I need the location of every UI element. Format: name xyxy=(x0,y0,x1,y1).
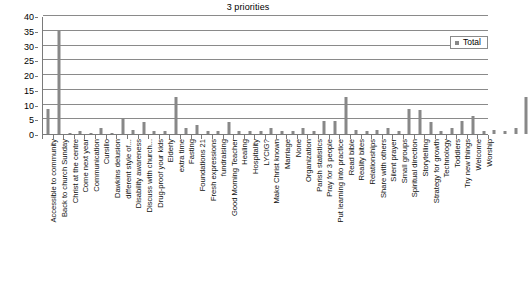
x-tick-label: Come next year xyxy=(82,139,90,193)
x-tick-label: Put learning into practice xyxy=(337,139,345,223)
bar-slot xyxy=(298,17,309,134)
y-tick-label: 40 xyxy=(24,13,34,22)
bar xyxy=(514,128,517,134)
bar xyxy=(227,122,230,134)
x-tick-label: Try new things xyxy=(464,139,472,188)
bar-slot xyxy=(149,17,160,134)
bar-slot xyxy=(43,17,54,134)
x-axis-label-2: Christ at the centre xyxy=(72,139,80,203)
x-tick-label: Make Christ known xyxy=(273,139,281,204)
y-tick-mark xyxy=(35,47,38,48)
x-tick-label: Accessible to community xyxy=(50,139,58,223)
bar-slot xyxy=(170,17,181,134)
plot-area xyxy=(42,17,488,135)
bar xyxy=(482,131,485,134)
bar-slot xyxy=(415,17,426,134)
bar-slot xyxy=(436,17,447,134)
x-tick-label: Communication xyxy=(93,139,101,192)
bar-slot xyxy=(468,17,479,134)
x-tick-label: Discuss with church... xyxy=(146,139,154,212)
x-tick-label: Share with others xyxy=(380,139,388,198)
bar-slot xyxy=(181,17,192,134)
y-tick-mark xyxy=(35,76,38,77)
bar xyxy=(440,131,443,134)
x-axis-label-38: Toddlers xyxy=(454,139,462,168)
x-axis-label-28: Read bible xyxy=(348,139,356,175)
bar-slot xyxy=(351,17,362,134)
y-tick-label: 30 xyxy=(24,42,34,51)
bar-slot xyxy=(500,17,511,134)
x-axis-label-39: Try new things xyxy=(464,139,472,188)
bar xyxy=(408,109,411,134)
y-tick-label: 0 xyxy=(29,131,34,140)
y-tick-mark xyxy=(35,32,38,33)
x-axis-label-4: Communication xyxy=(93,139,101,192)
bar xyxy=(259,131,262,134)
bar xyxy=(153,131,156,134)
bar xyxy=(249,131,252,134)
bar xyxy=(132,130,135,134)
x-tick-label: Technology xyxy=(443,139,451,177)
x-axis-label-11: Elderly xyxy=(167,139,175,162)
x-tick-label: Dawkins delusion xyxy=(114,139,122,198)
x-tick-label: Silent prayer xyxy=(390,139,398,182)
bar-slot xyxy=(308,17,319,134)
bar-slot xyxy=(54,17,65,134)
bar xyxy=(195,125,198,134)
bar-slot xyxy=(234,17,245,134)
y-tick-mark xyxy=(35,91,38,92)
bar-slot xyxy=(393,17,404,134)
x-axis-label-8: Disability awareness xyxy=(135,139,143,208)
bar-slot xyxy=(160,17,171,134)
bar xyxy=(217,131,220,134)
x-axis-label-18: Healing xyxy=(241,139,249,165)
x-axis-label-16: fundraising xyxy=(220,139,228,176)
bar xyxy=(472,116,475,134)
x-axis-label-13: Fasting xyxy=(188,139,196,164)
bar xyxy=(450,128,453,134)
x-tick-label: Reality bites xyxy=(358,139,366,180)
y-tick-mark xyxy=(35,135,38,136)
bar xyxy=(397,131,400,134)
x-tick-label: Hospitality xyxy=(252,139,260,174)
x-axis-label-3: Come next year xyxy=(82,139,90,193)
x-tick-label: Parish statistics xyxy=(316,139,324,192)
x-tick-label: Marriage xyxy=(284,139,292,169)
x-tick-label: Relationships xyxy=(369,139,377,185)
x-axis-label-37: Technology xyxy=(443,139,451,177)
x-axis-label-31: Share with others xyxy=(380,139,388,198)
x-axis-label-5: Cursillo xyxy=(103,139,111,164)
bar xyxy=(100,128,103,134)
bar-slot xyxy=(107,17,118,134)
bar xyxy=(355,130,358,134)
bar xyxy=(185,128,188,134)
legend: Total xyxy=(450,36,488,49)
bar-slot xyxy=(224,17,235,134)
x-tick-label: None xyxy=(295,139,303,157)
x-axis-label-35: Storytelling xyxy=(422,139,430,177)
x-axis-label-12: extra time xyxy=(178,139,186,172)
x-tick-label: Storytelling xyxy=(422,139,430,177)
bar-slot xyxy=(213,17,224,134)
y-tick-label: 35 xyxy=(24,27,34,36)
y-tick-mark xyxy=(35,120,38,121)
x-axis-label-20: LYCIG? xyxy=(263,139,271,165)
x-axis-label-6: Dawkins delusion xyxy=(114,139,122,198)
x-tick-label: Drug-proof your kids xyxy=(157,139,165,208)
bar-slot xyxy=(277,17,288,134)
bar-slot xyxy=(255,17,266,134)
bar xyxy=(525,97,528,134)
x-tick-label: Organization xyxy=(305,139,313,182)
bar-slot xyxy=(330,17,341,134)
bar xyxy=(164,131,167,134)
y-tick-label: 20 xyxy=(24,72,34,81)
x-tick-label: Back to church Sunday xyxy=(61,139,69,217)
x-axis-label-7: different style of... xyxy=(125,139,133,199)
bar-slot xyxy=(245,17,256,134)
bar xyxy=(323,121,326,134)
bar-slot xyxy=(128,17,139,134)
bar xyxy=(174,97,177,134)
bar-slot xyxy=(383,17,394,134)
x-axis-label-0: Accessible to community xyxy=(50,139,58,223)
